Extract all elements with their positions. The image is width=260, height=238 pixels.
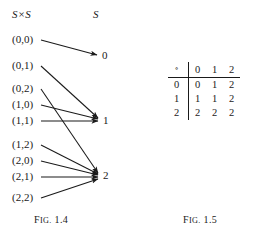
pair-label-1-1: (1,1) bbox=[12, 115, 33, 126]
table-row: 1 1 1 2 bbox=[168, 92, 240, 106]
caption-smallcaps-15: IG. bbox=[189, 216, 201, 225]
cell-1-0: 1 bbox=[189, 92, 207, 106]
pair-label-0-0: (0,0) bbox=[12, 34, 33, 45]
row-header-0: 0 bbox=[168, 78, 189, 93]
arrow-20-to-2 bbox=[41, 161, 98, 175]
cell-2-0: 2 bbox=[189, 106, 207, 120]
arrow-01-to-1 bbox=[41, 66, 98, 118]
cell-2-2: 2 bbox=[223, 106, 240, 120]
caption-number-14: 1.4 bbox=[55, 214, 68, 225]
arrow-22-to-2 bbox=[41, 179, 98, 198]
cell-0-0: 0 bbox=[189, 78, 207, 93]
arrow-00-to-0 bbox=[41, 40, 97, 55]
figure-1-5-caption: FIG. 1.5 bbox=[183, 214, 217, 225]
cell-1-1: 1 bbox=[206, 92, 223, 106]
caption-number-15: 1.5 bbox=[204, 214, 217, 225]
operation-table: ∘ 0 1 2 0 0 1 2 1 1 1 2 2 bbox=[168, 62, 240, 120]
table-header-row: ∘ 0 1 2 bbox=[168, 62, 240, 78]
cell-0-1: 1 bbox=[206, 78, 223, 93]
pair-label-0-2: (0,2) bbox=[12, 83, 33, 94]
caption-smallcaps-14: IG. bbox=[40, 216, 52, 225]
arrow-02-to-2 bbox=[41, 89, 98, 173]
column-header-2: 2 bbox=[223, 62, 240, 78]
figure-page: S×S S bbox=[0, 0, 260, 238]
target-label-2: 2 bbox=[103, 170, 109, 181]
pair-label-1-0: (1,0) bbox=[12, 99, 33, 110]
figure-1-4: S×S S bbox=[0, 0, 140, 238]
pair-label-2-2: (2,2) bbox=[12, 192, 33, 203]
pair-label-1-2: (1,2) bbox=[12, 139, 33, 150]
pair-label-2-0: (2,0) bbox=[12, 155, 33, 166]
target-label-1: 1 bbox=[103, 115, 109, 126]
operation-symbol-cell: ∘ bbox=[168, 62, 189, 78]
column-header-0: 0 bbox=[189, 62, 207, 78]
figure-1-5: ∘ 0 1 2 0 0 1 2 1 1 1 2 2 bbox=[150, 0, 260, 238]
target-label-0: 0 bbox=[102, 50, 108, 61]
figure-1-4-caption: FIG. 1.4 bbox=[34, 214, 68, 225]
table-row: 2 2 2 2 bbox=[168, 106, 240, 120]
cell-0-2: 2 bbox=[223, 78, 240, 93]
composition-circle-icon: ∘ bbox=[175, 64, 179, 73]
row-header-2: 2 bbox=[168, 106, 189, 120]
column-header-1: 1 bbox=[206, 62, 223, 78]
pair-label-2-1: (2,1) bbox=[12, 171, 33, 182]
row-header-1: 1 bbox=[168, 92, 189, 106]
cell-2-1: 2 bbox=[206, 106, 223, 120]
cell-1-2: 2 bbox=[223, 92, 240, 106]
table-row: 0 0 1 2 bbox=[168, 78, 240, 93]
pair-label-0-1: (0,1) bbox=[12, 60, 33, 71]
arrow-10-to-1 bbox=[41, 105, 98, 119]
